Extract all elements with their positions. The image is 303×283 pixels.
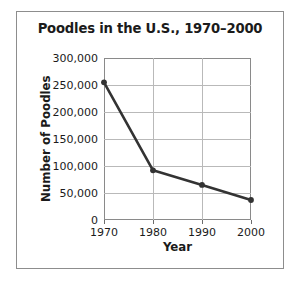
- y-axis-title: Number of Poodles: [39, 58, 53, 220]
- x-tick-label: 1970: [90, 226, 118, 239]
- data-point-marker: [150, 167, 156, 173]
- y-tick-label: 50,000: [60, 187, 99, 200]
- y-tick-label: 150,000: [53, 133, 99, 146]
- x-tick-label: 1980: [139, 226, 167, 239]
- x-axis-title: Year: [104, 240, 251, 254]
- plot-area: 050,000100,000150,000200,000250,000300,0…: [104, 58, 251, 220]
- series-markers: [101, 79, 254, 203]
- data-series-line: [104, 58, 251, 220]
- chart-figure-frame: Poodles in the U.S., 1970–2000 Number of…: [16, 11, 284, 269]
- x-tick-mark: [153, 220, 154, 224]
- chart-title: Poodles in the U.S., 1970–2000: [17, 21, 283, 36]
- x-tick-mark: [202, 220, 203, 224]
- x-tick-mark: [104, 220, 105, 224]
- x-tick-mark: [251, 220, 252, 224]
- x-tick-label: 1990: [188, 226, 216, 239]
- data-point-marker: [199, 182, 205, 188]
- y-tick-label: 300,000: [53, 52, 99, 65]
- data-point-marker: [101, 79, 107, 85]
- series-polyline: [104, 82, 251, 200]
- y-tick-label: 200,000: [53, 106, 99, 119]
- y-tick-label: 100,000: [53, 160, 99, 173]
- data-point-marker: [248, 197, 254, 203]
- y-tick-label: 250,000: [53, 79, 99, 92]
- x-tick-label: 2000: [237, 226, 265, 239]
- y-tick-label: 0: [91, 214, 98, 227]
